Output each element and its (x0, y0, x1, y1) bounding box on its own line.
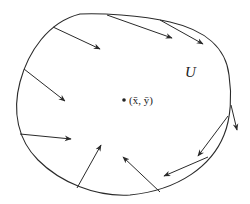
region-diagram: (x̄, ȳ) U (0, 0, 250, 204)
region-label: U (185, 64, 197, 80)
center-point (122, 98, 126, 102)
center-point-label: (x̄, ȳ) (129, 94, 153, 107)
vector-arrow (160, 20, 203, 44)
vector-arrow (107, 15, 172, 38)
vector-arrow (77, 145, 101, 188)
vector-arrow (20, 134, 71, 139)
vector-arrow (24, 69, 65, 101)
vector-arrow (53, 27, 100, 49)
vector-arrow (123, 157, 160, 192)
vector-arrow (231, 105, 237, 130)
